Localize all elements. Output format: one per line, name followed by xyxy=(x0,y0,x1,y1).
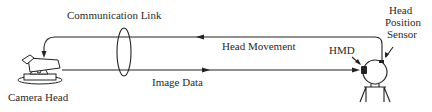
arrow-left-icon xyxy=(196,35,204,40)
arrow-down-icon xyxy=(42,51,47,58)
communication-link-ellipse xyxy=(117,28,131,76)
head-movement-label: Head Movement xyxy=(222,40,296,52)
arrow-right-icon xyxy=(202,68,210,73)
head-position-sensor-label-1: Head xyxy=(389,4,412,16)
head-position-sensor-label-3: Sensor xyxy=(387,28,417,40)
hmd-icon xyxy=(361,66,367,74)
hmd-label: HMD xyxy=(329,44,355,56)
camera-head-label: Camera Head xyxy=(8,91,68,103)
image-data-label: Image Data xyxy=(152,76,203,88)
body-icon xyxy=(360,84,390,102)
camera-head-icon xyxy=(18,55,62,84)
communication-link-label: Communication Link xyxy=(67,9,161,21)
head-position-sensor-label-2: Position xyxy=(385,16,421,28)
sensor-icon xyxy=(379,60,384,63)
arrow-right-icon xyxy=(352,68,360,73)
